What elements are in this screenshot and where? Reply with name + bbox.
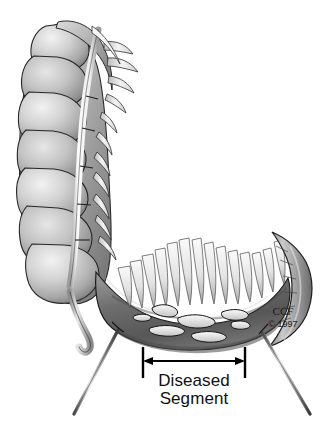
ulcer [192, 332, 227, 343]
ulcer [133, 314, 151, 321]
colon-illustration: Diseased Segment CCF © 1997 [0, 0, 334, 422]
ulcer [221, 310, 248, 321]
ulcer [231, 321, 250, 329]
diseased-segment-label-line1: Diseased [158, 371, 230, 390]
haustrum-cecum [26, 244, 99, 303]
ulcer [149, 326, 184, 337]
credit-organization: CCF [273, 305, 294, 317]
credit-copyright: © 1997 [268, 319, 297, 329]
figure-root: Diseased Segment CCF © 1997 [0, 0, 334, 422]
diseased-segment-label-line2: Segment [160, 389, 229, 408]
